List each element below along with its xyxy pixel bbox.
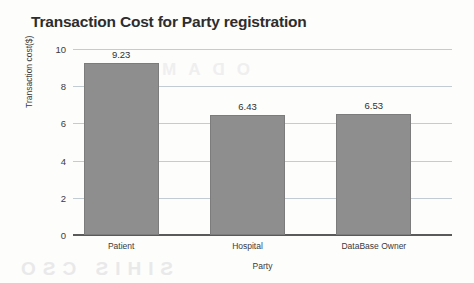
x-axis-category-label: Patient	[108, 241, 134, 251]
y-axis-tick-label: 4	[61, 155, 66, 166]
y-axis-tick-label: 2	[61, 192, 66, 203]
bar	[336, 114, 411, 235]
plot-area: Party 02468109.23Patient6.43Hospital6.53…	[73, 49, 452, 235]
bar-value-label: 9.23	[112, 49, 131, 60]
y-axis-tick-label: 0	[61, 230, 66, 241]
y-axis-tick-label: 10	[55, 44, 66, 55]
x-axis-category-label: DataBase Owner	[341, 241, 406, 251]
bar-value-label: 6.43	[238, 101, 257, 112]
bar	[210, 115, 285, 235]
y-axis-tick-label: 6	[61, 118, 66, 129]
bar	[84, 63, 159, 235]
x-axis-label: Party	[73, 261, 452, 271]
y-axis-label: Transaction cost($)	[24, 94, 34, 108]
chart-page: ODAM SIHIS CSO Transaction Cost for Part…	[0, 0, 474, 283]
bar-value-label: 6.53	[365, 100, 384, 111]
x-axis-category-label: Hospital	[232, 241, 263, 251]
chart-title: Transaction Cost for Party registration	[31, 13, 307, 31]
y-axis-tick-label: 8	[61, 81, 66, 92]
